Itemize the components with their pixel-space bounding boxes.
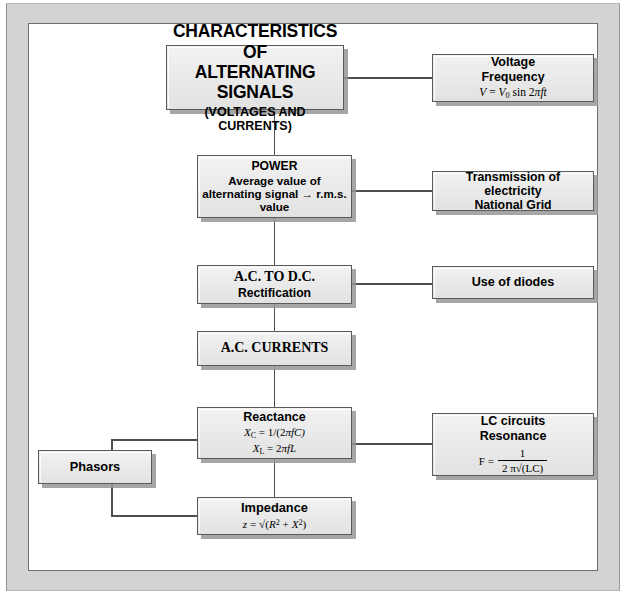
node-impedance[interactable]: Impedance z = √(R2 + X2) [197,497,352,535]
formula-numerator: 1 [514,447,532,460]
formula-inductive-reactance: XL = 2πfL [253,442,297,456]
node-characteristics-line1: CHARACTERISTICS OF [171,21,339,61]
formula-f-label: F = [479,455,494,468]
node-transmission-line1: Transmission of electricity [437,170,589,198]
node-power[interactable]: POWER Average value of alternating signa… [197,155,352,218]
formula-resonant-frequency: F = 1 2 π√(LC) [479,447,547,474]
node-ac-currents[interactable]: A.C. CURRENTS [197,331,352,366]
node-characteristics-of-alternating-signals[interactable]: CHARACTERISTICS OF ALTERNATING SIGNALS (… [166,45,344,110]
node-ac-to-dc-rectification[interactable]: A.C. TO D.C. Rectification [197,265,352,304]
node-transmission-line2: National Grid [474,198,551,212]
node-voltage-line1: Voltage [491,55,535,69]
node-acdc-line2: Rectification [238,286,311,300]
node-diodes-line1: Use of diodes [472,275,555,289]
node-lc-circuits-resonance[interactable]: LC circuits Resonance F = 1 2 π√(LC) [432,413,594,476]
diagram-canvas: CHARACTERISTICS OF ALTERNATING SIGNALS (… [0,0,628,594]
node-use-of-diodes[interactable]: Use of diodes [432,266,594,299]
node-power-line2: Average value of [228,174,320,187]
node-power-line4: value [260,200,290,213]
node-phasors[interactable]: Phasors [38,450,152,484]
node-power-line1: POWER [251,159,297,173]
node-power-line3: alternating signal → r.m.s. [202,187,346,200]
node-reactance[interactable]: Reactance XC = 1/(2πfC) XL = 2πfL [197,407,352,459]
node-phasors-line1: Phasors [70,460,121,475]
node-voltage-frequency[interactable]: Voltage Frequency V = V0 sin 2πft [432,54,594,102]
formula-impedance: z = √(R2 + X2) [243,518,307,531]
formula-denominator: 2 π√(LC) [498,460,547,475]
node-acdc-line1: A.C. TO D.C. [234,269,315,285]
edge-reactance-phasors [112,440,197,450]
node-voltage-line2: Frequency [481,70,544,84]
node-lc-line2: Resonance [480,429,547,443]
formula-capacitive-reactance: XC = 1/(2πfC) [244,426,305,440]
diagram-page: CHARACTERISTICS OF ALTERNATING SIGNALS (… [0,0,628,594]
node-transmission-of-electricity[interactable]: Transmission of electricity National Gri… [432,171,594,211]
formula-voltage-sine: V = V0 sin 2πft [479,86,547,100]
node-currents-line1: A.C. CURRENTS [221,340,329,356]
node-reactance-line1: Reactance [243,410,306,424]
edge-phasors-impedance [112,484,197,516]
node-characteristics-line2: ALTERNATING SIGNALS [171,62,339,102]
node-characteristics-line3: (VOLTAGES AND CURRENTS) [171,105,339,134]
node-impedance-line1: Impedance [241,501,308,516]
formula-fraction: 1 2 π√(LC) [498,447,547,474]
node-lc-line1: LC circuits [481,414,546,428]
